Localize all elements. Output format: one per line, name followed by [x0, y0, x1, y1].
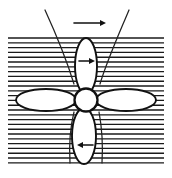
blade-right	[96, 89, 156, 111]
propeller-hub	[75, 89, 98, 112]
blade-bottom	[72, 108, 96, 164]
blade-top	[75, 38, 97, 94]
propeller-flow-figure	[0, 0, 172, 178]
blade-left	[16, 89, 76, 111]
figure-canvas	[0, 0, 172, 178]
